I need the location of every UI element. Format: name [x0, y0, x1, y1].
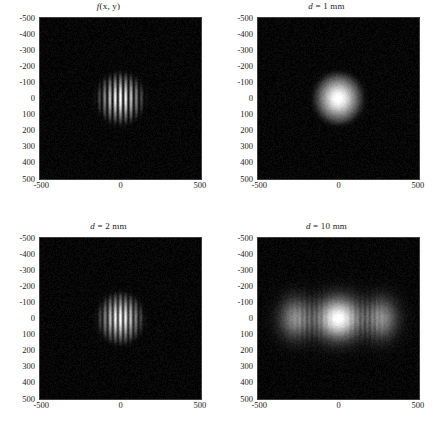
y-tick-label: 100	[0, 110, 35, 119]
x-tick-label: 500	[412, 181, 425, 190]
y-tick-label: 300	[0, 362, 35, 371]
y-tick-label: 100	[218, 110, 253, 119]
x-tick-label: -500	[33, 401, 49, 410]
x-axis-ticks-d10mm: -5000500	[257, 401, 420, 415]
x-tick-label: -500	[251, 401, 267, 410]
y-tick-label: 400	[0, 378, 35, 387]
y-tick-label: 0	[218, 314, 253, 323]
x-tick-label: 500	[412, 401, 425, 410]
intensity-image-source	[40, 18, 201, 179]
panel-d2mm: d = 2 mm -500-400-300-200-10001002003004…	[0, 220, 217, 440]
y-tick-label: -200	[0, 62, 35, 71]
y-tick-label: 400	[218, 378, 253, 387]
plot-frame-d10mm	[257, 237, 420, 400]
panel-title-source: f(x, y)	[0, 1, 217, 11]
y-tick-label: 200	[0, 126, 35, 135]
y-axis-ticks-d1mm: -500-400-300-200-1000100200300400500	[218, 17, 253, 179]
plot-frame-d1mm	[257, 17, 420, 180]
intensity-image-d10mm	[258, 238, 419, 399]
y-tick-label: -400	[218, 29, 253, 38]
y-tick-label: -300	[218, 45, 253, 54]
y-tick-label: 200	[0, 346, 35, 355]
y-tick-label: -100	[218, 78, 253, 87]
panel-title-rest: = 1 mm	[313, 1, 345, 11]
panel-title-d2mm: d = 2 mm	[0, 221, 217, 231]
y-tick-label: 100	[218, 330, 253, 339]
y-tick-label: -300	[218, 265, 253, 274]
y-axis-ticks-source: -500-400-300-200-1000100200300400500	[0, 17, 35, 179]
y-tick-label: 100	[0, 330, 35, 339]
y-tick-label: -500	[0, 233, 35, 242]
x-tick-label: 500	[194, 401, 207, 410]
y-tick-label: 300	[218, 142, 253, 151]
y-tick-label: 300	[218, 362, 253, 371]
plot-frame-d2mm	[39, 237, 202, 400]
panel-d1mm: d = 1 mm -500-400-300-200-10001002003004…	[218, 0, 435, 220]
x-tick-label: -500	[251, 181, 267, 190]
panel-title-rest: = 2 mm	[95, 221, 127, 231]
y-tick-label: 0	[0, 314, 35, 323]
x-axis-ticks-d1mm: -5000500	[257, 181, 420, 195]
y-tick-label: -400	[218, 249, 253, 258]
intensity-image-d2mm	[40, 238, 201, 399]
panel-source: f(x, y) -500-400-300-200-100010020030040…	[0, 0, 217, 220]
y-tick-label: 0	[0, 94, 35, 103]
y-tick-label: -400	[0, 29, 35, 38]
y-tick-label: -200	[0, 282, 35, 291]
y-tick-label: -300	[0, 265, 35, 274]
y-tick-label: 200	[218, 346, 253, 355]
intensity-image-d1mm	[258, 18, 419, 179]
y-tick-label: -100	[0, 298, 35, 307]
x-tick-label: 0	[336, 401, 340, 410]
panel-d10mm: d = 10 mm -500-400-300-200-1000100200300…	[218, 220, 435, 440]
y-tick-label: 300	[0, 142, 35, 151]
plot-frame-source	[39, 17, 202, 180]
y-tick-label: -500	[0, 13, 35, 22]
panel-title-rest: = 10 mm	[311, 221, 347, 231]
x-axis-ticks-source: -5000500	[39, 181, 202, 195]
y-tick-label: -200	[218, 282, 253, 291]
y-tick-label: -500	[218, 13, 253, 22]
x-tick-label: 0	[118, 181, 122, 190]
y-tick-label: -400	[0, 249, 35, 258]
y-tick-label: -100	[0, 78, 35, 87]
y-tick-label: 0	[218, 94, 253, 103]
x-tick-label: -500	[33, 181, 49, 190]
y-tick-label: 500	[0, 394, 35, 403]
y-tick-label: 500	[218, 174, 253, 183]
x-tick-label: 0	[336, 181, 340, 190]
y-tick-label: 400	[218, 158, 253, 167]
y-axis-ticks-d10mm: -500-400-300-200-1000100200300400500	[218, 237, 253, 399]
y-tick-label: -300	[0, 45, 35, 54]
y-tick-label: -100	[218, 298, 253, 307]
y-tick-label: 500	[0, 174, 35, 183]
panel-title-d1mm: d = 1 mm	[218, 1, 435, 11]
y-axis-ticks-d2mm: -500-400-300-200-1000100200300400500	[0, 237, 35, 399]
figure-container: f(x, y) -500-400-300-200-100010020030040…	[0, 0, 435, 440]
panel-title-rest: (x, y)	[100, 1, 121, 11]
y-tick-label: -200	[218, 62, 253, 71]
x-tick-label: 500	[194, 181, 207, 190]
y-tick-label: -500	[218, 233, 253, 242]
y-tick-label: 500	[218, 394, 253, 403]
y-tick-label: 400	[0, 158, 35, 167]
y-tick-label: 200	[218, 126, 253, 135]
x-tick-label: 0	[118, 401, 122, 410]
x-axis-ticks-d2mm: -5000500	[39, 401, 202, 415]
panel-title-d10mm: d = 10 mm	[218, 221, 435, 231]
